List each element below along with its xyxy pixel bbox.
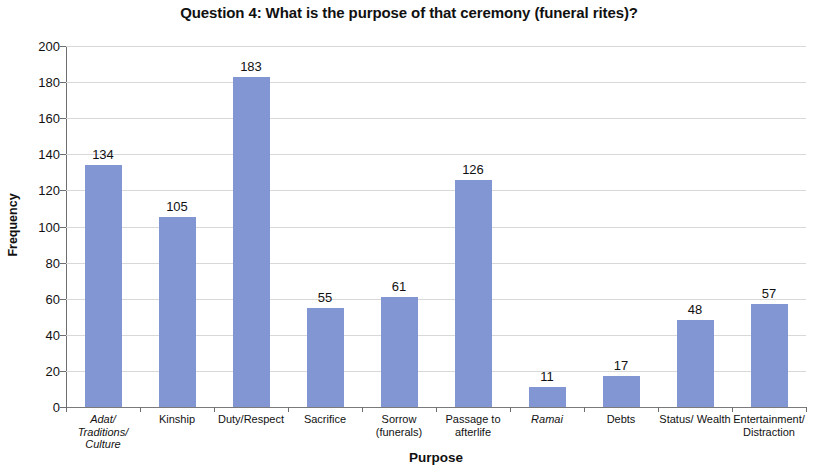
bar-column[interactable]: 17 — [584, 46, 658, 407]
bar-value-label: 105 — [140, 199, 214, 214]
bar[interactable] — [751, 304, 788, 407]
bar[interactable] — [159, 217, 196, 407]
chart-title: Question 4: What is the purpose of that … — [0, 4, 818, 21]
x-tick-mark — [806, 407, 807, 412]
bar-value-label: 17 — [584, 358, 658, 373]
x-tick-label: Status/ Wealth — [658, 413, 732, 426]
bar[interactable] — [455, 180, 492, 407]
bar-column[interactable]: 11 — [510, 46, 584, 407]
bar-value-label: 48 — [658, 302, 732, 317]
bar-value-label: 183 — [214, 59, 288, 74]
x-tick-mark — [288, 407, 289, 412]
y-tick-label: 140 — [18, 147, 60, 162]
y-tick-label: 20 — [18, 363, 60, 378]
x-tick-label: Passage toafterlife — [436, 413, 510, 438]
x-tick-mark — [362, 407, 363, 412]
y-tick-label: 160 — [18, 111, 60, 126]
x-tick-label: Debts — [584, 413, 658, 426]
bar-value-label: 126 — [436, 162, 510, 177]
x-tick-label: Sacrifice — [288, 413, 362, 426]
x-tick-mark — [140, 407, 141, 412]
y-tick-label: 180 — [18, 75, 60, 90]
x-tick-label: Ramai — [510, 413, 584, 426]
bar-column[interactable]: 126 — [436, 46, 510, 407]
y-tick-label: 0 — [18, 400, 60, 415]
bar-value-label: 61 — [362, 279, 436, 294]
x-tick-mark — [214, 407, 215, 412]
x-tick-label: Sorrow(funerals) — [362, 413, 436, 438]
x-tick-mark — [66, 407, 67, 412]
bar-column[interactable]: 61 — [362, 46, 436, 407]
bar-column[interactable]: 105 — [140, 46, 214, 407]
plot-area: 134105183556112611174857 — [66, 46, 806, 407]
bar-value-label: 134 — [66, 147, 140, 162]
bar-chart-figure: Question 4: What is the purpose of that … — [0, 0, 818, 475]
bar[interactable] — [677, 320, 714, 407]
bar[interactable] — [381, 297, 418, 407]
bar-column[interactable]: 48 — [658, 46, 732, 407]
bar[interactable] — [307, 308, 344, 407]
bar[interactable] — [603, 376, 640, 407]
bar-column[interactable]: 183 — [214, 46, 288, 407]
x-tick-mark — [510, 407, 511, 412]
x-tick-mark — [732, 407, 733, 412]
x-tick-label: Entertainment/Distraction — [732, 413, 806, 438]
y-tick-label: 80 — [18, 255, 60, 270]
bar[interactable] — [85, 165, 122, 407]
x-tick-mark — [584, 407, 585, 412]
bar-column[interactable]: 57 — [732, 46, 806, 407]
bar-value-label: 55 — [288, 290, 362, 305]
y-tick-label: 100 — [18, 219, 60, 234]
x-tick-mark — [658, 407, 659, 412]
bar[interactable] — [233, 77, 270, 407]
y-tick-label: 40 — [18, 327, 60, 342]
x-tick-label: Duty/Respect — [214, 413, 288, 426]
bar-column[interactable]: 134 — [66, 46, 140, 407]
y-tick-label: 200 — [18, 39, 60, 54]
bar-column[interactable]: 55 — [288, 46, 362, 407]
x-axis-title: Purpose — [66, 450, 806, 465]
y-tick-label: 120 — [18, 183, 60, 198]
x-tick-label: Adat/Traditions/Culture — [66, 413, 140, 451]
x-tick-label: Kinship — [140, 413, 214, 426]
x-tick-mark — [436, 407, 437, 412]
bar-value-label: 57 — [732, 286, 806, 301]
bar[interactable] — [529, 387, 566, 407]
y-tick-label: 60 — [18, 291, 60, 306]
bar-value-label: 11 — [510, 369, 584, 384]
